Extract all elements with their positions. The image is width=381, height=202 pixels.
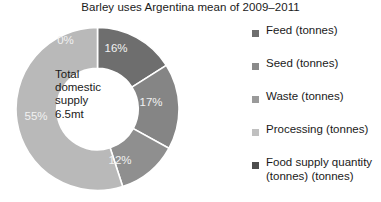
legend-item[interactable]: Processing (tonnes) — [252, 125, 381, 158]
legend-item-label: Seed (tonnes) — [266, 57, 381, 71]
chart-legend: Feed (tonnes)Seed (tonnes)Waste (tonnes)… — [252, 26, 381, 191]
legend-item[interactable]: Seed (tonnes) — [252, 59, 381, 92]
slice-value-label: 17% — [139, 96, 162, 108]
slice-value-label: 55% — [24, 110, 47, 122]
legend-swatch-icon — [252, 129, 259, 136]
legend-item[interactable]: Waste (tonnes) — [252, 92, 381, 125]
chart-title: Barley uses Argentina mean of 2009–2011 — [0, 1, 381, 13]
legend-item[interactable]: Food supply quantity (tonnes) (tonnes) — [252, 158, 381, 191]
legend-item-label: Waste (tonnes) — [266, 90, 381, 104]
center-line-2: domestic — [55, 81, 133, 94]
center-line-4: 6.5mt — [55, 108, 133, 121]
legend-swatch-icon — [252, 30, 259, 37]
legend-item-label: Food supply quantity (tonnes) (tonnes) — [266, 156, 381, 183]
legend-item[interactable]: Feed (tonnes) — [252, 26, 381, 59]
slice-value-label: 12% — [108, 154, 131, 166]
legend-swatch-icon — [252, 63, 259, 70]
pie-chart-figure: Barley uses Argentina mean of 2009–2011 … — [0, 0, 381, 202]
center-annotation: Total domestic supply 6.5mt — [55, 68, 133, 121]
slice-value-label: 0% — [57, 34, 74, 46]
center-line-1: Total — [55, 68, 133, 81]
legend-item-label: Processing (tonnes) — [266, 123, 381, 137]
legend-swatch-icon — [252, 96, 259, 103]
legend-swatch-icon — [252, 162, 259, 169]
legend-item-label: Feed (tonnes) — [266, 24, 381, 38]
center-line-3: supply — [55, 94, 133, 107]
slice-value-label: 16% — [104, 42, 127, 54]
